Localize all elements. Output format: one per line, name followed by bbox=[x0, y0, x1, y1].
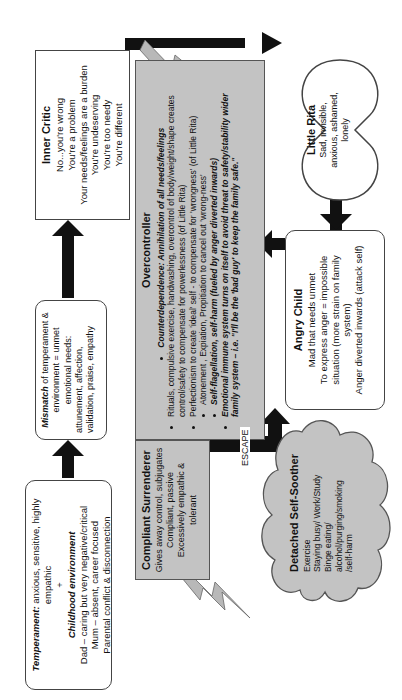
angry-child-line: To express anger = impossible situation … bbox=[318, 239, 354, 401]
soother-line: Staying busy/ Work/Study bbox=[312, 442, 323, 572]
temperament-box: Temperament: anxious, sensitive, highly … bbox=[25, 480, 112, 690]
lightning-bolt-icon bbox=[182, 574, 250, 618]
angry-child-line: Anger diverted inwards (attack self) bbox=[353, 239, 365, 401]
mismatch-label: Mismatch bbox=[40, 386, 50, 428]
detached-self-soother-title: Detached Self-Soother bbox=[288, 442, 302, 572]
overcontroller-title: Overcontroller bbox=[140, 71, 154, 429]
compliant-line: Excessively empathic & tolerant bbox=[176, 447, 199, 573]
overcontroller-bullet: Rituals, compulsive exercise, handwashin… bbox=[166, 71, 187, 417]
schema-mode-diagram: Temperament: anxious, sensitive, highly … bbox=[0, 0, 402, 700]
little-rita-text: Little Rita Sad, invisible, anxious, ash… bbox=[305, 85, 351, 175]
compliant-surrenderer-title: Compliant Surrenderer bbox=[140, 447, 154, 573]
plus-sign: + bbox=[54, 487, 66, 683]
compliant-surrenderer-box: Compliant Surrenderer Gives away control… bbox=[135, 440, 210, 580]
little-rita-title: Little Rita bbox=[305, 85, 318, 175]
mismatch-needs: attunement, affection, validation, prais… bbox=[74, 307, 97, 433]
overcontroller-bullet: Self-flagellation, self-harm (fueled by … bbox=[209, 71, 220, 405]
inner-critic-line: You're a problem bbox=[66, 57, 78, 213]
detached-self-soother-text: Detached Self-Soother Exercise Staying b… bbox=[288, 442, 355, 572]
overcontroller-box: Overcontroller Counterdependence: Annihi… bbox=[135, 60, 265, 440]
mismatch-line: Mismatch of temperament & environment = … bbox=[40, 307, 74, 433]
inner-critic-box: Inner Critic No...you're wrong You're a … bbox=[35, 50, 130, 220]
compliant-line: Gives away control, subjugates bbox=[154, 447, 165, 573]
env-line-mum: Mum – absent, career focused bbox=[89, 487, 101, 683]
childhood-environment-title: Childhood environment bbox=[66, 487, 78, 683]
soother-line: /self-harm bbox=[344, 442, 355, 572]
inner-critic-line: Your needs/feelings are a burden bbox=[78, 57, 90, 213]
temperament-text: anxious, sensitive, highly empathic bbox=[30, 499, 53, 607]
inner-critic-line: You're too needy bbox=[101, 57, 113, 213]
overcontroller-list: Counterdependence: Annihilation of all n… bbox=[156, 71, 241, 429]
env-line-parental: Parental conflict & disconnection bbox=[101, 487, 113, 683]
little-rita-feelings: Sad, invisible, anxious, ashamed, lonely bbox=[318, 85, 350, 175]
angry-child-line: Mad that needs unmet bbox=[306, 239, 318, 401]
escape-label: ESCAPE bbox=[240, 427, 250, 468]
overcontroller-bullet: Atonement , Expiation, Propitiation to c… bbox=[198, 71, 209, 405]
temperament-label: Temperament: bbox=[30, 606, 41, 671]
inner-critic-title: Inner Critic bbox=[40, 57, 54, 213]
soother-line: Exercise bbox=[302, 442, 313, 572]
overcontroller-bullet: Perfectionism to create 'ideal' self - t… bbox=[188, 71, 199, 417]
arrow-little-rita-to-angry-child bbox=[320, 198, 352, 230]
soother-line: alcohol/purging/smoking bbox=[334, 442, 345, 572]
compliant-line: Compliant, passive bbox=[165, 447, 176, 573]
inner-critic-line: No...you're wrong bbox=[54, 57, 66, 213]
angry-child-box: Angry Child Mad that needs unmet To expr… bbox=[285, 230, 385, 410]
overcontroller-bullet: Emotional immune system turns on itself … bbox=[220, 71, 241, 417]
overcontroller-bullet: Counterdependence: Annihilation of all n… bbox=[156, 71, 167, 417]
temperament-line: Temperament: anxious, sensitive, highly … bbox=[30, 487, 54, 683]
env-line-dad: Dad – caring but very negative/critical bbox=[78, 487, 90, 683]
arrow-temperament-to-mismatch bbox=[52, 440, 84, 478]
mismatch-box: Mismatch of temperament & environment = … bbox=[35, 300, 107, 440]
inner-critic-line: You're different bbox=[113, 57, 125, 213]
arrow-mismatch-to-inner-critic bbox=[52, 220, 84, 298]
angry-child-title: Angry Child bbox=[292, 239, 306, 401]
soother-line: Binge eating/ bbox=[323, 442, 334, 572]
inner-critic-line: You're undeserving bbox=[89, 57, 101, 213]
